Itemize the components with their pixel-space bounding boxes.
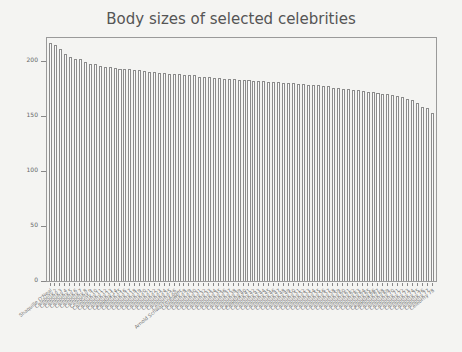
bar: [148, 72, 151, 281]
bar: [109, 67, 112, 281]
bar: [327, 86, 330, 281]
bar: [267, 82, 270, 281]
bar: [228, 79, 231, 281]
x-axis: Shaquille O'NealCelebrity 2Celebrity 3Ce…: [46, 283, 437, 343]
bar: [218, 78, 221, 281]
bar: [337, 88, 340, 281]
bar: [94, 64, 97, 281]
x-tick: [392, 283, 393, 286]
bar: [272, 82, 275, 281]
bar: [153, 72, 156, 281]
x-tick: [59, 283, 60, 286]
bar: [123, 69, 126, 281]
bar: [173, 74, 176, 281]
bar: [54, 45, 57, 281]
bar: [262, 81, 265, 281]
x-tick: [397, 283, 398, 286]
x-tick: [79, 283, 80, 286]
bar: [208, 77, 211, 281]
x-tick: [159, 283, 160, 286]
bar: [163, 73, 166, 281]
x-tick: [253, 283, 254, 286]
bar: [143, 71, 146, 281]
x-tick: [89, 283, 90, 286]
bar: [381, 94, 384, 281]
bar: [376, 93, 379, 281]
bar: [84, 62, 87, 281]
bar: [421, 107, 424, 281]
bar: [352, 90, 355, 281]
bar: [104, 67, 107, 281]
bar: [168, 74, 171, 281]
bar: [114, 68, 117, 281]
bar: [69, 57, 72, 281]
bar: [302, 84, 305, 281]
x-tick: [144, 283, 145, 286]
x-tick: [387, 283, 388, 286]
bar: [247, 80, 250, 281]
bar: [118, 69, 121, 281]
x-tick: [134, 283, 135, 286]
bar: [213, 78, 216, 281]
bar: [307, 85, 310, 281]
bar: [138, 70, 141, 281]
x-tick: [248, 283, 249, 286]
x-tick: [402, 283, 403, 286]
bar: [287, 83, 290, 281]
bar: [178, 74, 181, 281]
bar: [257, 81, 260, 281]
x-tick: [412, 283, 413, 286]
x-tick: [283, 283, 284, 286]
x-tick: [288, 283, 289, 286]
bar: [416, 103, 419, 281]
x-tick: [268, 283, 269, 286]
bar: [362, 91, 365, 281]
bar: [372, 92, 375, 281]
y-tick-label: 50: [30, 221, 38, 228]
bar: [367, 92, 370, 281]
x-tick: [154, 283, 155, 286]
bar: [223, 79, 226, 281]
bar: [64, 54, 67, 282]
x-tick: [64, 283, 65, 286]
bar: [238, 80, 241, 281]
bar: [89, 64, 92, 281]
bar: [342, 89, 345, 281]
bar: [128, 69, 131, 281]
bar: [79, 59, 82, 281]
bar: [396, 96, 399, 281]
bar: [282, 83, 285, 281]
bar: [406, 99, 409, 281]
chart-title: Body sizes of selected celebrities: [0, 10, 462, 28]
y-tick-label: 150: [27, 111, 38, 118]
x-tick: [293, 283, 294, 286]
x-tick: [119, 283, 120, 286]
bar: [431, 113, 434, 281]
y-tick-label: 200: [27, 56, 38, 63]
bar: [332, 88, 335, 281]
x-tick: [422, 283, 423, 286]
bar: [292, 83, 295, 281]
bar: [386, 94, 389, 281]
bar: [74, 59, 77, 281]
x-tick: [164, 283, 165, 286]
bar: [317, 85, 320, 281]
x-tick: [54, 283, 55, 286]
bar: [188, 75, 191, 281]
x-tick: [417, 283, 418, 286]
x-tick: [124, 283, 125, 286]
x-tick: [263, 283, 264, 286]
x-tick: [382, 283, 383, 286]
bar: [133, 70, 136, 281]
x-tick: [407, 283, 408, 286]
x-tick: [129, 283, 130, 286]
bar: [426, 108, 429, 281]
bar: [243, 80, 246, 281]
x-tick: [273, 283, 274, 286]
x-tick: [74, 283, 75, 286]
bar: [158, 73, 161, 281]
x-tick: [149, 283, 150, 286]
x-tick: [258, 283, 259, 286]
bar: [203, 77, 206, 281]
bar: [322, 86, 325, 281]
